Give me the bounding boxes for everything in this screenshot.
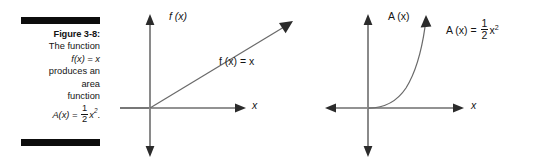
figure-caption-block: Figure 3-8: The function f(x) = x produc… — [21, 17, 100, 146]
graph-fx-canvas — [120, 0, 320, 163]
graph-panel-fx: f (x) x f (x) = x — [120, 0, 320, 163]
caption-formula: A(x) = 1 2 x2. — [21, 104, 100, 124]
graph-ax-canvas — [320, 0, 537, 163]
fraction-denominator: 2 — [81, 115, 88, 124]
caption-bottom-rule — [21, 139, 100, 146]
caption-line-4: area — [21, 78, 100, 90]
caption-formula-fraction: 1 2 — [81, 104, 88, 124]
curve-label-ax-fraction: 1 2 — [481, 18, 489, 40]
caption-text: Figure 3-8: The function f(x) = x produc… — [21, 28, 100, 124]
caption-line-2: f(x) = x — [21, 53, 100, 65]
fraction-numerator: 1 — [481, 18, 489, 30]
y-axis-ax — [364, 14, 373, 157]
caption-line-3: produces an — [21, 65, 100, 77]
y-axis-label-ax: A (x) — [388, 10, 410, 22]
curve-label-ax-lhs: A (x) = — [446, 24, 477, 36]
fraction-denominator: 2 — [481, 30, 489, 41]
y-axis-label-fx: f (x) — [169, 10, 187, 22]
caption-top-rule — [21, 17, 100, 24]
caption-formula-lhs: A(x) = — [52, 110, 77, 120]
x-axis-ax — [325, 104, 464, 113]
x-axis-label-ax: x — [471, 99, 476, 111]
x-axis-label-fx: x — [252, 99, 257, 111]
caption-line-1: The function — [21, 40, 100, 52]
curve-label-fx: f (x) = x — [219, 55, 254, 67]
caption-formula-period: . — [97, 110, 100, 120]
curve-parabola-ax — [368, 15, 431, 108]
figure-number-label: Figure 3-8: — [21, 28, 100, 40]
caption-line-5: function — [21, 90, 100, 102]
graph-panel-ax: A (x) x A (x) = 1 2 x2 — [320, 0, 537, 163]
curve-label-ax: A (x) = 1 2 x2 — [446, 18, 499, 40]
x-axis-fx — [120, 104, 246, 113]
y-axis-fx — [146, 14, 155, 157]
curve-label-ax-exponent: 2 — [495, 24, 499, 32]
